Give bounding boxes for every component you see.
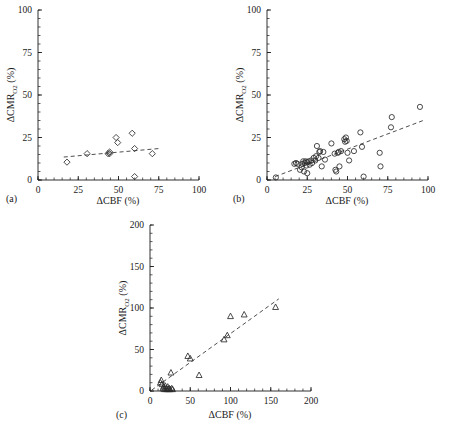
panel-b-xaxis-title: ΔCBF (%)	[326, 195, 369, 207]
data-point-marker	[64, 159, 70, 165]
data-point-marker	[314, 143, 319, 148]
panel-c-ticks	[150, 225, 311, 391]
data-point-marker	[389, 115, 394, 120]
panel-a-plot: 02550751000255075100 ΔCBF (%) ΔCMRO2 (%)…	[0, 0, 222, 215]
panel-c-yaxis-title: ΔCMRO2 (%)	[117, 281, 131, 336]
panel-c-ytick-label: 50	[135, 345, 145, 355]
panel-a-data-points	[64, 130, 156, 180]
panel-a-ytick-label: 100	[18, 5, 33, 15]
panel-c-plot: 050100150200050100150200 ΔCBF (%) ΔCMRO2…	[88, 213, 378, 433]
data-point-marker	[319, 164, 324, 169]
data-point-marker	[273, 175, 278, 180]
data-point-marker	[359, 144, 364, 149]
panel-a-tag: (a)	[6, 193, 17, 205]
panel-a-xaxis-title: ΔCBF (%)	[97, 195, 140, 207]
panel-a-ytick-label: 0	[27, 175, 32, 185]
panel-a-xtick-label: 0	[36, 185, 41, 195]
panel-b-axes	[267, 10, 428, 180]
panel-b-ytick-label: 25	[252, 133, 262, 143]
panel-a-ticks	[38, 10, 199, 180]
panel-c-ytick-label: 150	[130, 262, 145, 272]
panel-c-ytick-label: 0	[139, 386, 144, 396]
panel-a-trendline	[64, 149, 159, 158]
panel-b-yaxis-title: ΔCMRO2 (%)	[234, 68, 248, 123]
data-point-marker	[228, 313, 234, 319]
data-point-marker	[417, 104, 422, 109]
data-point-marker	[388, 125, 393, 130]
data-point-marker	[224, 332, 230, 338]
data-point-marker	[378, 164, 383, 169]
panel-a-xtick-label: 50	[114, 185, 124, 195]
panel-a-regression-line	[64, 149, 159, 158]
panel-a-yaxis-title: ΔCMRO2 (%)	[5, 68, 19, 123]
data-point-marker	[358, 130, 363, 135]
panel-b-tag: (b)	[233, 193, 245, 205]
panel-c-xtick-label: 200	[304, 396, 319, 406]
data-point-marker	[149, 151, 155, 157]
data-point-marker	[168, 370, 174, 376]
panel-b: 02550751000255075100 ΔCBF (%) ΔCMRO2 (%)…	[222, 0, 451, 215]
panel-c-trendline	[152, 299, 279, 390]
panel-c-xaxis-title: ΔCBF (%)	[209, 409, 252, 421]
panel-b-xtick-label: 25	[303, 185, 313, 195]
data-point-marker	[196, 372, 202, 378]
panel-b-xtick-label: 50	[343, 185, 353, 195]
panel-b-xtick-label: 100	[421, 185, 436, 195]
data-point-marker	[84, 151, 90, 157]
data-point-marker	[345, 150, 350, 155]
panel-c-xtick-label: 100	[223, 396, 238, 406]
panel-c-ytick-label: 100	[130, 303, 145, 313]
panel-c-tag: (c)	[116, 409, 127, 421]
data-point-marker	[273, 304, 279, 310]
panel-c-regression-line	[152, 299, 279, 390]
figure-container: 02550751000255075100 ΔCBF (%) ΔCMRO2 (%)…	[0, 0, 451, 433]
panel-a-ytick-label: 50	[23, 90, 33, 100]
data-point-marker	[377, 150, 382, 155]
panel-c-xtick-label: 0	[148, 396, 153, 406]
data-point-marker	[241, 311, 247, 317]
panel-c-ytick-label: 200	[130, 220, 145, 230]
panel-b-trendline	[275, 121, 423, 177]
panel-c-tick-labels: 050100150200050100150200	[130, 220, 319, 406]
data-point-marker	[334, 169, 339, 174]
panel-a-tick-labels: 02550751000255075100	[18, 5, 207, 195]
panel-a-ytick-label: 75	[23, 48, 33, 58]
panel-a-xtick-label: 75	[154, 185, 164, 195]
panel-b-xtick-label: 0	[265, 185, 270, 195]
panel-b-plot: 02550751000255075100 ΔCBF (%) ΔCMRO2 (%)…	[222, 0, 451, 215]
panel-b-ytick-label: 0	[256, 175, 261, 185]
panel-b-xtick-label: 75	[383, 185, 393, 195]
panel-a: 02550751000255075100 ΔCBF (%) ΔCMRO2 (%)…	[0, 0, 222, 215]
panel-c-xtick-label: 50	[186, 396, 196, 406]
panel-b-regression-line	[275, 121, 423, 177]
data-point-marker	[129, 130, 135, 136]
panel-a-ytick-label: 25	[23, 133, 33, 143]
panel-c-data-points	[158, 304, 279, 392]
data-point-marker	[351, 149, 356, 154]
data-point-marker	[337, 164, 342, 169]
panel-b-ytick-label: 50	[252, 90, 262, 100]
panel-a-xtick-label: 100	[192, 185, 207, 195]
panel-b-ticks	[267, 10, 428, 180]
panel-a-axes	[38, 10, 199, 180]
panel-b-ytick-label: 75	[252, 48, 262, 58]
panel-c-axes	[150, 225, 311, 391]
data-point-marker	[329, 141, 334, 146]
data-point-marker	[322, 157, 327, 162]
panel-b-tick-labels: 02550751000255075100	[247, 5, 436, 195]
panel-c-xtick-label: 150	[264, 396, 279, 406]
panel-b-ytick-label: 100	[247, 5, 262, 15]
data-point-marker	[347, 158, 352, 163]
panel-a-xtick-label: 25	[74, 185, 84, 195]
panel-c: 050100150200050100150200 ΔCBF (%) ΔCMRO2…	[88, 213, 378, 433]
